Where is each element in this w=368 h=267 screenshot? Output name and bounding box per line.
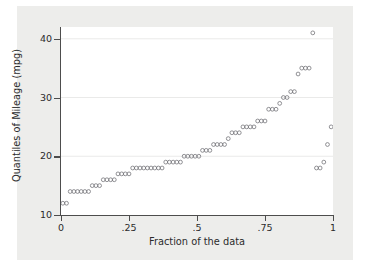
y-tick-mark <box>54 39 60 40</box>
x-tick-mark <box>265 215 266 221</box>
data-point <box>219 143 223 147</box>
data-point <box>164 160 168 164</box>
data-point <box>112 178 116 182</box>
plot-area <box>61 27 333 215</box>
data-point <box>245 125 249 129</box>
data-point <box>68 190 72 194</box>
gridlines-group <box>61 39 333 157</box>
quantile-plot-figure: 10203040 0.25.5.751 Quantiles of Mileage… <box>0 0 368 267</box>
data-point <box>212 143 216 147</box>
plot-canvas <box>61 27 333 215</box>
y-tick-label: 10 <box>40 209 52 220</box>
data-point <box>311 31 315 35</box>
y-tick-label: 40 <box>40 33 52 44</box>
data-point <box>157 166 161 170</box>
data-point <box>142 166 146 170</box>
data-point <box>153 166 157 170</box>
data-point <box>230 131 234 135</box>
data-point <box>83 190 87 194</box>
y-tick-label: 30 <box>40 92 52 103</box>
data-point <box>241 125 245 129</box>
data-point <box>322 160 326 164</box>
y-tick-label: 20 <box>40 150 52 161</box>
x-tick-label: .75 <box>257 222 272 233</box>
y-tick-mark <box>54 98 60 99</box>
data-point <box>234 131 238 135</box>
data-point <box>208 148 212 152</box>
data-point <box>149 166 153 170</box>
data-point <box>127 172 131 176</box>
data-point <box>300 66 304 70</box>
data-markers-group <box>61 31 333 205</box>
data-point <box>138 166 142 170</box>
y-tick-mark <box>54 156 60 157</box>
data-point <box>105 178 109 182</box>
data-point <box>109 178 113 182</box>
x-tick-label: .5 <box>192 222 201 233</box>
data-point <box>215 143 219 147</box>
data-point <box>274 107 278 111</box>
data-point <box>179 160 183 164</box>
data-point <box>329 125 333 129</box>
data-point <box>252 125 256 129</box>
data-point <box>72 190 76 194</box>
x-tick-label: 0 <box>58 222 64 233</box>
data-point <box>131 166 135 170</box>
data-point <box>270 107 274 111</box>
data-point <box>145 166 149 170</box>
x-tick-mark <box>197 215 198 221</box>
data-point <box>98 184 102 188</box>
data-point <box>87 190 91 194</box>
data-point <box>263 119 267 123</box>
data-point <box>226 137 230 141</box>
data-point <box>293 90 297 94</box>
data-point <box>171 160 175 164</box>
data-point <box>79 190 83 194</box>
data-point <box>101 178 105 182</box>
data-point <box>304 66 308 70</box>
y-axis-title: Quantiles of Mileage (mpg) <box>11 26 22 206</box>
data-point <box>65 201 69 205</box>
data-point <box>315 166 319 170</box>
x-tick-mark <box>129 215 130 221</box>
data-point <box>160 166 164 170</box>
x-tick-label: .25 <box>121 222 136 233</box>
data-point <box>204 148 208 152</box>
data-point <box>116 172 120 176</box>
x-tick-mark <box>61 215 62 221</box>
data-point <box>237 131 241 135</box>
data-point <box>134 166 138 170</box>
data-point <box>248 125 252 129</box>
data-point <box>296 72 300 76</box>
data-point <box>326 143 330 147</box>
x-axis-title: Fraction of the data <box>61 236 333 247</box>
data-point <box>259 119 263 123</box>
data-point <box>267 107 271 111</box>
data-point <box>120 172 124 176</box>
data-point <box>223 143 227 147</box>
data-point <box>201 148 205 152</box>
data-point <box>278 101 282 105</box>
data-point <box>256 119 260 123</box>
data-point <box>90 184 94 188</box>
data-point <box>289 90 293 94</box>
data-point <box>94 184 98 188</box>
data-point <box>61 201 65 205</box>
data-point <box>175 160 179 164</box>
x-tick-label: 1 <box>330 222 336 233</box>
data-point <box>168 160 172 164</box>
y-axis-line <box>60 27 61 215</box>
data-point <box>76 190 80 194</box>
data-point <box>123 172 127 176</box>
data-point <box>318 166 322 170</box>
x-tick-mark <box>333 215 334 221</box>
y-tick-mark <box>54 215 60 216</box>
data-point <box>307 66 311 70</box>
